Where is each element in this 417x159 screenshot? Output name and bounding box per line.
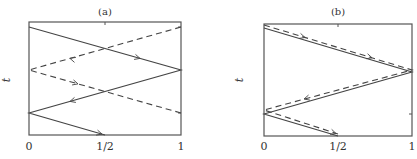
arrowhead-icon xyxy=(70,57,76,62)
panel-a-ylabel: t xyxy=(0,77,13,82)
panel-b-ylabel: t xyxy=(233,77,246,82)
panel-a-solid-trajectory xyxy=(29,27,181,135)
panel-a-xtick-0: 0 xyxy=(26,140,33,153)
panel-b-dashed-trajectory xyxy=(264,25,412,134)
panel-b-solid-trajectory xyxy=(264,28,412,136)
arrowhead-icon xyxy=(366,54,372,59)
panel-a-title: (a) xyxy=(98,6,112,17)
panel-b-xtick-0: 0 xyxy=(261,140,268,153)
panel-b: (b) t 0 1/2 1 xyxy=(233,6,416,153)
panel-a-arrows xyxy=(70,54,140,135)
panel-b-frame xyxy=(264,24,412,136)
panel-a-dashed-trajectory xyxy=(29,27,181,113)
figure: (a) t 0 1/2 1 (b) t 0 1/2 1 xyxy=(0,0,417,159)
panel-b-xtick-1: 1 xyxy=(409,140,416,153)
panel-a-xtick-half: 1/2 xyxy=(96,140,114,153)
panel-a-frame xyxy=(29,22,181,135)
panel-a-xtick-1: 1 xyxy=(178,140,185,153)
panel-a: (a) t 0 1/2 1 xyxy=(0,6,185,153)
panel-b-title: (b) xyxy=(331,6,345,17)
panel-b-xtick-half: 1/2 xyxy=(329,140,347,153)
arrowhead-icon xyxy=(299,33,305,38)
panel-b-arrows xyxy=(299,33,372,134)
